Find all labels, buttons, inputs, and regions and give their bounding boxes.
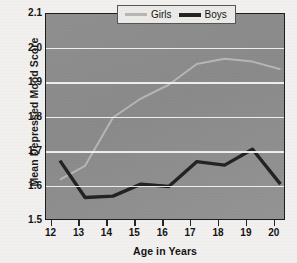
x-tick-label: 13 [67, 227, 89, 239]
x-tick-mark [134, 220, 135, 226]
gridline [46, 48, 284, 50]
plot-area [45, 13, 285, 220]
x-tick-mark [190, 220, 191, 226]
y-tick-label: 1.6 [16, 181, 42, 191]
legend-entry-boys: Boys [179, 9, 227, 20]
legend-entry-girls: Girls [125, 9, 172, 20]
x-axis-tick-labels: 121314151617181920 [45, 227, 285, 241]
y-axis-tick-labels: 1.51.61.71.81.92.02.1 [12, 0, 42, 263]
x-tick-mark [78, 220, 79, 226]
x-tick-label: 19 [235, 227, 257, 239]
gridline [46, 151, 284, 153]
gridline [46, 186, 284, 188]
x-tick-label: 15 [123, 227, 145, 239]
x-axis-title: Age in Years [45, 245, 285, 257]
y-tick-label: 2.0 [16, 43, 42, 53]
y-tick-label: 1.7 [16, 146, 42, 156]
x-tick-label: 16 [151, 227, 173, 239]
x-tick-label: 18 [207, 227, 229, 239]
depressed-mood-line-chart: Mean Depressed Mood Score 1.51.61.71.81.… [0, 0, 297, 263]
x-tick-label: 20 [263, 227, 285, 239]
girls-line-swatch [125, 13, 147, 16]
x-tick-mark [246, 220, 247, 226]
line-series-boys [60, 149, 280, 197]
legend-label: Boys [205, 9, 227, 20]
boys-line-swatch [179, 13, 201, 17]
legend-label: Girls [151, 9, 172, 20]
x-tick-label: 12 [40, 227, 62, 239]
y-tick-label: 2.1 [16, 8, 42, 18]
gridline [46, 82, 284, 84]
x-tick-mark [274, 220, 275, 226]
x-tick-label: 14 [95, 227, 117, 239]
y-tick-label: 1.8 [16, 112, 42, 122]
x-tick-label: 17 [179, 227, 201, 239]
x-tick-mark [106, 220, 107, 226]
x-axis-tick-marks [45, 220, 285, 227]
x-tick-mark [162, 220, 163, 226]
line-series-girls [60, 59, 280, 180]
y-tick-label: 1.5 [16, 215, 42, 225]
chart-legend: GirlsBoys [117, 5, 236, 24]
x-tick-mark [218, 220, 219, 226]
y-tick-label: 1.9 [16, 77, 42, 87]
x-tick-mark [51, 220, 52, 226]
gridline [46, 117, 284, 119]
